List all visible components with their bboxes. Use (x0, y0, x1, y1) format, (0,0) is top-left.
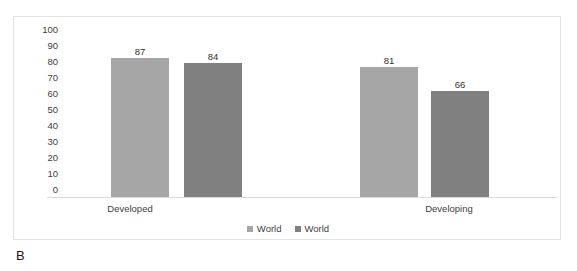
y-axis-tick: 40 (20, 121, 58, 131)
y-axis-tick: 90 (20, 41, 58, 51)
y-axis-tick: 100 (20, 25, 58, 35)
y-axis-tick: 30 (20, 137, 58, 147)
chart-frame: 100 90 80 70 60 50 40 30 20 10 0 87 84 8… (13, 16, 561, 240)
bar-value-label: 81 (359, 55, 419, 66)
category-label-developing: Developing (369, 203, 529, 214)
y-axis-tick: 0 (20, 185, 58, 195)
figure-caption: B (16, 248, 25, 264)
plot-area: 87 84 81 66 (61, 37, 557, 197)
bar-developing-world-2 (431, 91, 489, 197)
category-axis-line (47, 197, 557, 198)
y-axis-tick: 80 (20, 57, 58, 67)
bar-value-label: 84 (183, 51, 243, 62)
legend-swatch-icon (295, 226, 301, 232)
bar-developed-world-2 (184, 63, 242, 197)
legend-item[interactable]: World (295, 223, 330, 234)
y-axis-tick: 60 (20, 89, 58, 99)
legend-swatch-icon (247, 226, 253, 232)
legend-label: World (305, 223, 330, 234)
bar-value-label: 66 (430, 79, 490, 90)
legend-label: World (257, 223, 282, 234)
chart-legend: World World (14, 223, 562, 234)
bar-value-label: 87 (110, 46, 170, 57)
bar-developed-world-1 (111, 58, 169, 197)
bar-developing-world-1 (360, 67, 418, 197)
y-axis-tick: 20 (20, 153, 58, 163)
category-label-developed: Developed (50, 203, 210, 214)
legend-item[interactable]: World (247, 223, 282, 234)
y-axis-tick: 50 (20, 105, 58, 115)
y-axis-tick: 10 (20, 169, 58, 179)
y-axis: 100 90 80 70 60 50 40 30 20 10 0 (20, 30, 58, 204)
y-axis-tick: 70 (20, 73, 58, 83)
